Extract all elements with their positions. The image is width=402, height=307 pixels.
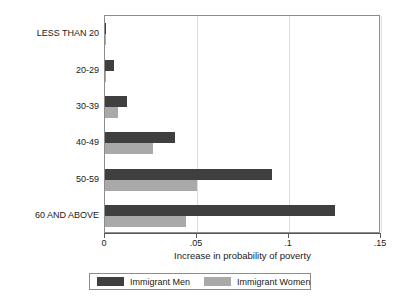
bar-group xyxy=(105,60,379,82)
chart-legend: Immigrant Men Immigrant Women xyxy=(89,273,311,290)
bar-group xyxy=(105,169,379,191)
y-axis-label: 50-59 xyxy=(0,174,99,184)
bar-men xyxy=(105,23,106,34)
x-axis-tick-label: .05 xyxy=(190,238,203,249)
bars-area xyxy=(105,16,379,232)
bar-group xyxy=(105,205,379,227)
bar-women xyxy=(105,180,197,191)
x-axis-title: Increase in probability of poverty xyxy=(104,250,381,261)
y-axis-category-labels: LESS THAN 2020-2930-3940-4950-5960 AND A… xyxy=(0,15,99,233)
x-axis-tick-label: .1 xyxy=(284,238,292,249)
legend-label-immigrant-men: Immigrant Men xyxy=(130,277,190,287)
plot-area xyxy=(104,15,380,233)
x-axis-line xyxy=(104,233,381,234)
poverty-probability-bar-chart: LESS THAN 2020-2930-3940-4950-5960 AND A… xyxy=(0,0,402,307)
y-axis-label: 20-29 xyxy=(0,65,99,75)
y-axis-label: 40-49 xyxy=(0,137,99,147)
bar-group xyxy=(105,96,379,118)
bar-men xyxy=(105,60,114,71)
x-axis-tick-label: .15 xyxy=(374,238,387,249)
legend-swatch-immigrant-men xyxy=(97,277,124,286)
bar-men xyxy=(105,169,272,180)
legend-label-immigrant-women: Immigrant Women xyxy=(237,277,310,287)
bar-women xyxy=(105,107,118,118)
bar-group xyxy=(105,23,379,45)
y-axis-label: 30-39 xyxy=(0,101,99,111)
bar-women xyxy=(105,143,153,154)
bar-women xyxy=(105,71,106,82)
legend-entry-women: Immigrant Women xyxy=(204,277,310,287)
bar-women xyxy=(105,216,186,227)
legend-entry-men: Immigrant Men xyxy=(97,277,190,287)
legend-swatch-immigrant-women xyxy=(204,277,231,286)
y-axis-label: 60 AND ABOVE xyxy=(0,210,99,220)
gridline xyxy=(381,16,382,232)
bar-men xyxy=(105,205,335,216)
bar-men xyxy=(105,96,127,107)
x-axis-tick-label: 0 xyxy=(101,238,106,249)
bar-group xyxy=(105,132,379,154)
y-axis-label: LESS THAN 20 xyxy=(0,28,99,38)
bar-men xyxy=(105,132,175,143)
bar-women xyxy=(105,34,106,45)
